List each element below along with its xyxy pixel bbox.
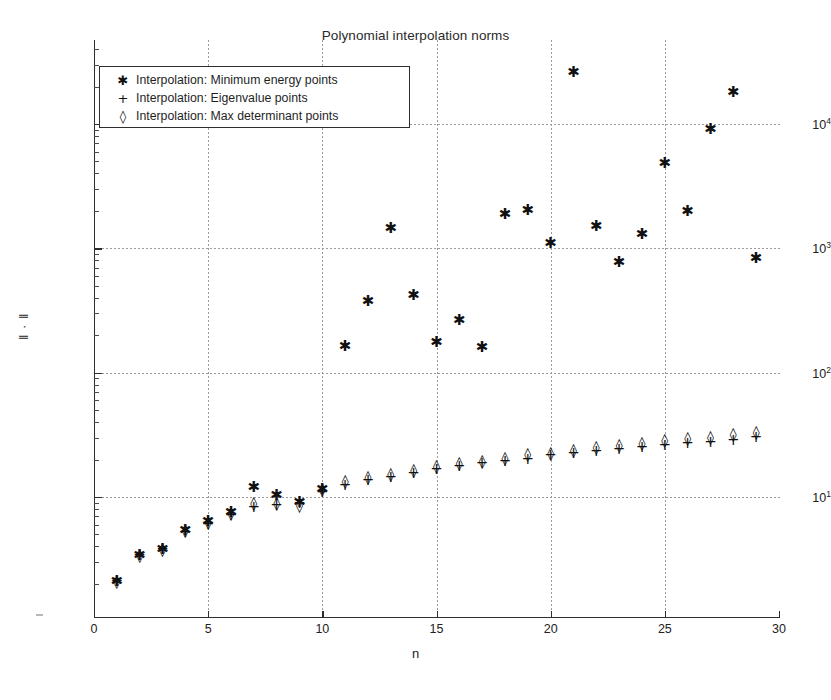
plus-marker-icon: + — [567, 446, 580, 461]
star-marker-icon: ✱ — [111, 574, 124, 589]
legend-label: Interpolation: Eigenvalue points — [136, 91, 308, 105]
diamond-marker-icon: ◊ — [707, 430, 714, 444]
plus-marker-icon: + — [110, 91, 136, 106]
diamond-marker-icon: ◊ — [684, 431, 691, 445]
plus-marker-icon: + — [293, 496, 306, 511]
plus-marker-icon: + — [385, 469, 398, 484]
plus-marker-icon: + — [111, 574, 124, 589]
x-axis-label: n — [0, 646, 831, 661]
y-tick-minor — [94, 152, 99, 153]
gridline-vertical — [665, 40, 666, 618]
star-marker-icon: ✱ — [362, 293, 375, 308]
y-tick-minor — [94, 525, 99, 526]
y-tick-minor — [94, 136, 99, 137]
y-tick-minor — [94, 562, 99, 563]
star-marker-icon: ✱ — [110, 73, 136, 88]
plus-marker-icon: + — [339, 477, 352, 492]
y-tick-label: 104 — [747, 116, 831, 132]
y-tick-minor — [94, 392, 99, 393]
diamond-marker-icon: ◊ — [365, 470, 372, 484]
y-tick-minor — [94, 460, 99, 461]
star-marker-icon: ✱ — [499, 206, 512, 221]
y-tick-minor — [94, 286, 99, 287]
figure-canvas: Polynomial interpolation norms 051015202… — [0, 0, 831, 700]
plus-marker-icon: + — [476, 456, 489, 471]
y-tick-minor — [94, 298, 99, 299]
gridline-horizontal — [94, 373, 780, 374]
plus-marker-icon: + — [613, 441, 626, 456]
y-tick-minor — [94, 335, 99, 336]
y-tick-minor — [94, 385, 99, 386]
diamond-marker-icon: ◊ — [273, 496, 280, 510]
y-tick-minor — [94, 161, 99, 162]
star-marker-icon: ✱ — [248, 480, 261, 495]
diamond-marker-icon: ◊ — [387, 467, 394, 481]
star-marker-icon: ✱ — [522, 202, 535, 217]
x-tick-label: 25 — [658, 622, 672, 636]
y-axis-label-wrap: ‖ · ‖ — [16, 340, 43, 355]
y-tick — [94, 248, 102, 249]
plus-marker-icon: + — [362, 473, 375, 488]
star-marker-icon: ✱ — [385, 221, 398, 236]
x-tick-label: 30 — [772, 622, 786, 636]
y-tick-minor — [94, 516, 99, 517]
diamond-marker-icon: ◊ — [639, 436, 646, 450]
gridline-horizontal — [94, 497, 780, 498]
y-tick — [94, 373, 102, 374]
legend-label: Interpolation: Max determinant points — [136, 109, 338, 123]
legend-box: ✱Interpolation: Minimum energy points+In… — [99, 66, 410, 128]
x-tick — [322, 611, 323, 618]
y-tick-minor — [94, 260, 99, 261]
star-marker-icon: ✱ — [339, 338, 352, 353]
x-tick — [208, 611, 209, 618]
diamond-marker-icon: ◊ — [456, 456, 463, 470]
star-marker-icon: ✱ — [407, 288, 420, 303]
diamond-marker-icon: ◊ — [730, 427, 737, 441]
gridline-vertical — [437, 40, 438, 618]
y-tick-minor — [94, 313, 99, 314]
y-tick-minor — [94, 546, 99, 547]
plus-marker-icon: + — [499, 454, 512, 469]
legend-entry: +Interpolation: Eigenvalue points — [100, 89, 409, 107]
legend-entry: ◊Interpolation: Max determinant points — [100, 107, 409, 125]
y-tick-minor — [94, 49, 99, 50]
y-tick-label: 102 — [747, 364, 831, 380]
star-marker-icon: ✱ — [156, 542, 169, 557]
y-tick-minor — [94, 410, 99, 411]
diamond-marker-icon: ◊ — [228, 506, 235, 520]
y-tick-minor — [94, 211, 99, 212]
plus-marker-icon: + — [522, 451, 535, 466]
x-tick — [779, 611, 780, 618]
star-marker-icon: ✱ — [453, 313, 466, 328]
y-tick-minor — [94, 503, 99, 504]
x-tick — [437, 611, 438, 618]
diamond-marker-icon: ◊ — [136, 548, 143, 562]
gridline-vertical — [551, 40, 552, 618]
y-tick-label: 103 — [747, 240, 831, 256]
star-marker-icon: ✱ — [613, 254, 626, 269]
plus-marker-icon: + — [270, 497, 283, 512]
x-tick-label: 15 — [430, 622, 444, 636]
y-tick-minor — [94, 254, 99, 255]
y-tick-minor — [94, 422, 99, 423]
star-marker-icon: ✱ — [727, 85, 740, 100]
diamond-marker-icon: ◊ — [342, 474, 349, 488]
plus-marker-icon: + — [407, 465, 420, 480]
y-tick-minor — [94, 584, 99, 585]
diamond-marker-icon: ◊ — [524, 447, 531, 461]
diamond-marker-icon: ◊ — [616, 438, 623, 452]
y-tick-label: 101 — [747, 489, 831, 505]
y-axis-line — [94, 40, 95, 618]
x-tick-label: 20 — [544, 622, 558, 636]
diamond-marker-icon: ◊ — [410, 463, 417, 477]
page-edge-artifact — [36, 614, 43, 616]
plus-marker-icon: + — [681, 436, 694, 451]
plus-marker-icon: + — [704, 435, 717, 450]
x-tick-label: 10 — [315, 622, 329, 636]
diamond-marker-icon: ◊ — [296, 498, 303, 512]
plus-marker-icon: + — [156, 542, 169, 557]
legend-entry: ✱Interpolation: Minimum energy points — [100, 71, 409, 89]
diamond-marker-icon: ◊ — [182, 523, 189, 537]
x-tick-label: 0 — [91, 622, 98, 636]
gridline-horizontal — [94, 248, 780, 249]
